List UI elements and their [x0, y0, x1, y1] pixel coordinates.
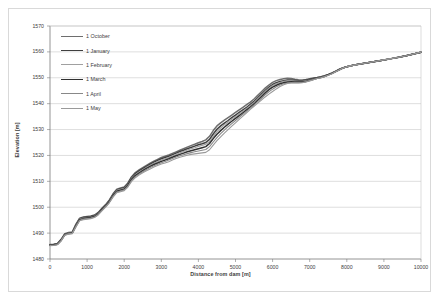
x-tick-label: 3000	[144, 264, 178, 270]
legend-swatch-icon	[61, 79, 83, 80]
x-tick-label: 0	[33, 264, 67, 270]
chart-screenshot: 1480149015001510152015301540155015601570…	[0, 0, 439, 300]
legend-swatch-icon	[61, 108, 83, 109]
y-tick-label: 1560	[20, 48, 44, 54]
legend-item-1-january: 1 January	[61, 43, 112, 57]
x-axis-title: Distance from dam [m]	[9, 271, 432, 277]
legend-label: 1 October	[86, 33, 110, 39]
legend-item-1-april: 1 April	[61, 87, 112, 101]
legend-swatch-icon	[61, 50, 83, 51]
y-tick-label: 1520	[20, 152, 44, 158]
x-tick-label: 5000	[219, 264, 253, 270]
legend-label: 1 February	[86, 62, 112, 68]
x-tick-label: 8000	[330, 264, 364, 270]
chart-legend: 1 October1 January1 February1 March1 Apr…	[61, 29, 112, 115]
x-tick-label: 9000	[367, 264, 401, 270]
legend-label: 1 April	[86, 91, 101, 97]
x-tick-label: 1000	[70, 264, 104, 270]
x-tick-label: 2000	[107, 264, 141, 270]
legend-label: 1 May	[86, 105, 101, 111]
y-tick-label: 1550	[20, 74, 44, 80]
y-tick-label: 1490	[20, 230, 44, 236]
x-tick-label: 4000	[181, 264, 215, 270]
y-tick-label: 1510	[20, 178, 44, 184]
legend-item-1-october: 1 October	[61, 29, 112, 43]
y-tick-label: 1570	[20, 23, 44, 29]
y-tick-label: 1480	[20, 256, 44, 262]
legend-item-1-february: 1 February	[61, 58, 112, 72]
x-tick-label: 7000	[293, 264, 327, 270]
y-axis-title: Elevation [m]	[14, 110, 20, 170]
chart-frame: 1480149015001510152015301540155015601570…	[8, 8, 431, 292]
legend-swatch-icon	[61, 93, 83, 94]
plot-area: 1480149015001510152015301540155015601570…	[9, 9, 432, 293]
legend-label: 1 January	[86, 48, 110, 54]
x-tick-label: 10000	[404, 264, 438, 270]
legend-item-1-march: 1 March	[61, 72, 112, 86]
y-tick-label: 1530	[20, 126, 44, 132]
y-tick-label: 1540	[20, 100, 44, 106]
y-tick-label: 1500	[20, 204, 44, 210]
legend-label: 1 March	[86, 76, 105, 82]
x-tick-label: 6000	[256, 264, 290, 270]
legend-swatch-icon	[61, 64, 83, 65]
legend-swatch-icon	[61, 36, 83, 37]
legend-item-1-may: 1 May	[61, 101, 112, 115]
